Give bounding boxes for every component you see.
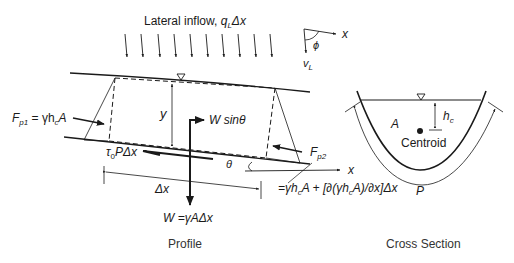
- area-label: A: [390, 117, 399, 131]
- svg-text:Lateral inflow, qLΔx: Lateral inflow, qLΔx: [144, 14, 247, 30]
- x-axis-label: x: [347, 163, 355, 177]
- fp1-label: Fp1 = γhcA: [12, 111, 67, 127]
- open-channel-momentum-diagram: Lateral inflow, qLΔx x ϕ vL: [0, 0, 514, 263]
- fp2-arrow-icon: [273, 146, 302, 152]
- hc-label: hc: [443, 109, 454, 125]
- shear-label: τ0PΔx: [106, 145, 138, 161]
- theta-arc-icon: [249, 162, 253, 171]
- arrow-down-icon: [254, 34, 256, 57]
- profile-view: y Fp1 = γhcA W sinθ τ0PΔx θ x Fp2 =γhcA …: [12, 73, 399, 251]
- arrow-down-icon: [158, 34, 160, 57]
- theta-label: θ: [226, 158, 232, 170]
- weight-label: W =γAΔx: [163, 211, 214, 225]
- pressure-triangle-right: [266, 88, 300, 163]
- arrow-down-icon: [141, 34, 143, 57]
- fp2-label: Fp2: [310, 145, 327, 161]
- lateral-inflow-label: Lateral inflow, qLΔx: [144, 14, 247, 30]
- arrow-down-icon: [222, 34, 224, 57]
- phi-label: ϕ: [313, 39, 319, 51]
- x-axis-label: x: [341, 27, 349, 41]
- dx-label: Δx: [154, 182, 170, 196]
- arrow-down-icon: [206, 34, 208, 57]
- w-sin-theta-label: W sinθ: [209, 113, 246, 127]
- fp2-leader-line: [288, 163, 312, 183]
- dx-dimension: [106, 172, 259, 189]
- x-axis-line: [245, 170, 340, 171]
- pressure-triangle-left: [84, 78, 115, 141]
- cross-section-view: hc A Centroid P Cross Section: [345, 91, 503, 251]
- lateral-inflow-arrows: [125, 34, 272, 57]
- centroid-dot-icon: [417, 128, 423, 134]
- arrow-down-icon: [125, 34, 127, 57]
- fp2-expression: =γhcA + [∂(γhcA)/∂x]Δx: [278, 181, 399, 197]
- depth-label: y: [159, 106, 168, 121]
- arrow-down-icon: [270, 34, 272, 57]
- fp1-arrow-icon: [73, 118, 104, 124]
- arrow-down-icon: [190, 34, 192, 57]
- angle-indicator: x ϕ vL: [303, 27, 349, 72]
- arrow-down-icon: [238, 34, 240, 57]
- water-surface-triangle-icon: [417, 94, 425, 100]
- water-surface-triangle-icon: [177, 74, 185, 80]
- profile-caption: Profile: [168, 237, 202, 251]
- velocity-label: vL: [303, 57, 313, 72]
- cross-section-caption: Cross Section: [386, 237, 461, 251]
- perimeter-label: P: [416, 184, 424, 198]
- arrow-down-icon: [174, 34, 176, 57]
- centroid-label: Centroid: [401, 136, 446, 150]
- diagram-canvas: Lateral inflow, qLΔx x ϕ vL: [0, 0, 514, 263]
